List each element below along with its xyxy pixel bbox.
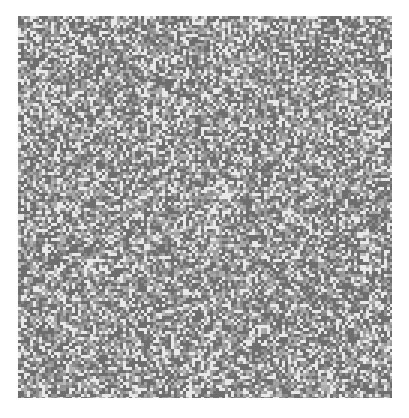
noise-texture-image [18, 16, 392, 398]
